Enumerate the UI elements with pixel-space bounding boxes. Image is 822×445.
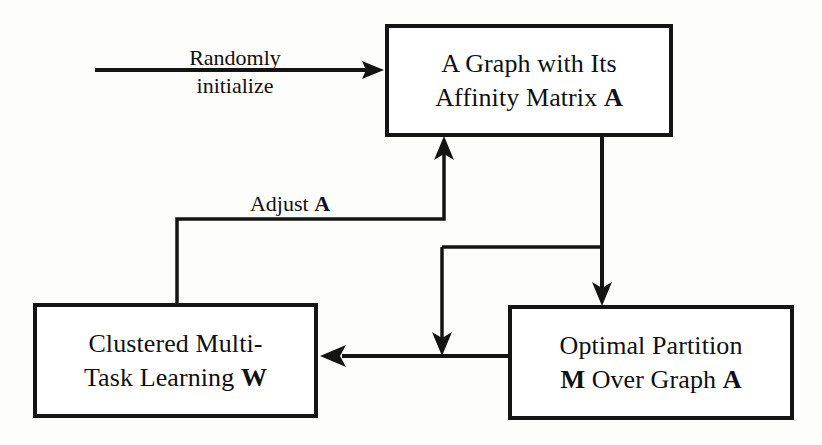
edge-graph-to-partition: [592, 137, 612, 306]
edge-label-adjust-text: Adjust: [250, 191, 314, 216]
edge-label-adjust-a: Adjust A: [215, 192, 365, 217]
node-optimal-partition[interactable]: Optimal Partition M Over Graph A: [508, 305, 794, 420]
node-partition-line1: Optimal Partition: [560, 331, 743, 360]
edge-label-randomly: Randomly: [140, 46, 330, 71]
node-cmtl-line2-prefix: Task Learning: [84, 363, 241, 392]
edge-partition-to-learning: [320, 345, 508, 367]
node-partition-symbol-a: A: [723, 365, 742, 394]
node-graph-affinity-matrix[interactable]: A Graph with Its Affinity Matrix A: [385, 24, 673, 137]
node-partition-line2-mid: Over Graph: [585, 365, 723, 394]
node-cmtl-line1: Clustered Multi-: [88, 329, 262, 358]
edge-label-adjust-symbol-a: A: [314, 191, 330, 216]
node-graph-symbol-a: A: [604, 83, 623, 112]
node-partition-symbol-m: M: [560, 365, 585, 394]
node-clustered-multi-task-learning[interactable]: Clustered Multi- Task Learning W: [33, 303, 318, 418]
diagram-canvas: A Graph with Its Affinity Matrix A Clust…: [0, 0, 822, 445]
node-graph-line2-prefix: Affinity Matrix: [435, 83, 604, 112]
edge-label-initialize: initialize: [140, 74, 330, 99]
node-cmtl-symbol-w: W: [241, 363, 267, 392]
edge-adjust-a: [177, 136, 454, 303]
node-graph-line1: A Graph with Its: [441, 49, 617, 78]
